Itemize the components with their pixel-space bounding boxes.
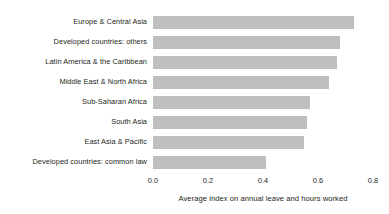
category-label: Middle East & North Africa	[59, 72, 147, 92]
bar-row: Sub-Saharan Africa	[153, 92, 373, 112]
x-axis-title: Average index on annual leave and hours …	[153, 194, 373, 203]
bar	[153, 16, 354, 29]
bar-row: Middle East & North Africa	[153, 72, 373, 92]
category-label: Europe & Central Asia	[73, 12, 147, 32]
bar	[153, 136, 304, 149]
bar-row: Developed countries: common law	[153, 152, 373, 172]
bar-row: Europe & Central Asia	[153, 12, 373, 32]
bar-row: South Asia	[153, 112, 373, 132]
category-label: East Asia & Pacific	[84, 132, 147, 152]
x-tick-label: 0.0	[148, 176, 158, 185]
bar	[153, 96, 310, 109]
bar-row: Latin America & the Caribbean	[153, 52, 373, 72]
bar	[153, 116, 307, 129]
x-tick-label: 0.4	[258, 176, 268, 185]
category-label: South Asia	[111, 112, 147, 132]
bar-row: Developed countries: others	[153, 32, 373, 52]
x-tick-label: 0.8	[368, 176, 378, 185]
plot-area: Europe & Central AsiaDeveloped countries…	[153, 12, 373, 175]
x-tick-label: 0.2	[203, 176, 213, 185]
bar	[153, 56, 337, 69]
category-label: Developed countries: others	[54, 32, 147, 52]
category-label: Developed countries: common law	[32, 152, 147, 172]
bar	[153, 76, 329, 89]
x-tick-label: 0.6	[313, 176, 323, 185]
bar	[153, 156, 266, 169]
bar-row: East Asia & Pacific	[153, 132, 373, 152]
bar	[153, 36, 340, 49]
x-axis: 0.00.20.40.60.8	[153, 176, 373, 188]
category-label: Sub-Saharan Africa	[82, 92, 147, 112]
category-label: Latin America & the Caribbean	[45, 52, 147, 72]
bar-chart: Europe & Central AsiaDeveloped countries…	[0, 0, 389, 214]
